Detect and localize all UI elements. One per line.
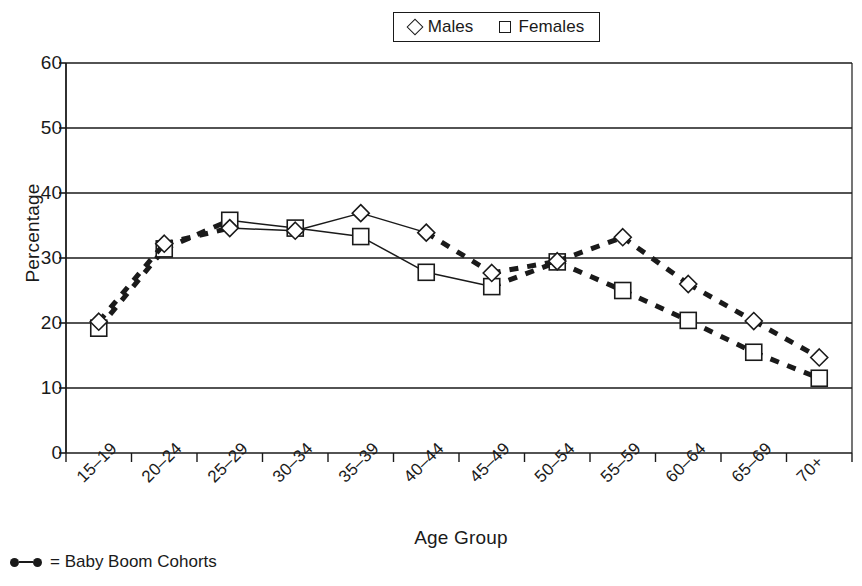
chart-plot-area <box>0 0 862 586</box>
series-females-segment-8 <box>623 291 689 321</box>
series-females-segment-3 <box>295 228 361 236</box>
series-males-segment-4 <box>361 213 427 233</box>
series-males-segment-0 <box>99 244 165 322</box>
data-point-females-8[interactable] <box>615 283 631 299</box>
series-females-segment-9 <box>688 320 754 352</box>
data-point-females-4[interactable] <box>353 229 369 245</box>
baby-boom-line-icon <box>10 558 42 567</box>
series-females-segment-1 <box>164 220 230 249</box>
series-females-segment-6 <box>492 262 558 287</box>
series-females-segment-0 <box>99 249 165 328</box>
data-point-males-11[interactable] <box>811 349 828 366</box>
series-males-segment-3 <box>295 213 361 231</box>
data-point-females-5[interactable] <box>418 264 434 280</box>
data-point-males-4[interactable] <box>352 205 369 222</box>
x-axis-title: Age Group <box>0 527 862 549</box>
series-males-segment-9 <box>688 284 754 321</box>
legend-entry-males: Males <box>409 17 474 37</box>
legend-label-females: Females <box>518 17 584 37</box>
legend-label-males: Males <box>428 17 474 37</box>
square-icon <box>499 21 511 33</box>
diamond-icon <box>406 19 423 36</box>
chart-legend: Males Females <box>393 12 600 42</box>
data-point-females-9[interactable] <box>680 312 696 328</box>
series-females-segment-4 <box>361 237 427 273</box>
series-males-segment-2 <box>230 228 296 231</box>
series-females-segment-10 <box>754 352 820 378</box>
series-females-segment-7 <box>557 262 623 291</box>
footnote-text: = Baby Boom Cohorts <box>50 552 217 572</box>
series-males-segment-10 <box>754 321 820 357</box>
data-point-females-10[interactable] <box>746 344 762 360</box>
series-males-segment-8 <box>623 237 689 284</box>
data-point-females-11[interactable] <box>811 370 827 386</box>
series-females-segment-2 <box>230 220 296 228</box>
chart-page: Males Females 0102030405060 Percentage 1… <box>0 0 862 586</box>
series-females-segment-5 <box>426 272 492 286</box>
series-males-segment-1 <box>164 228 230 244</box>
footnote: = Baby Boom Cohorts <box>10 552 217 572</box>
series-males-segment-5 <box>426 233 492 273</box>
legend-entry-females: Females <box>499 17 584 37</box>
